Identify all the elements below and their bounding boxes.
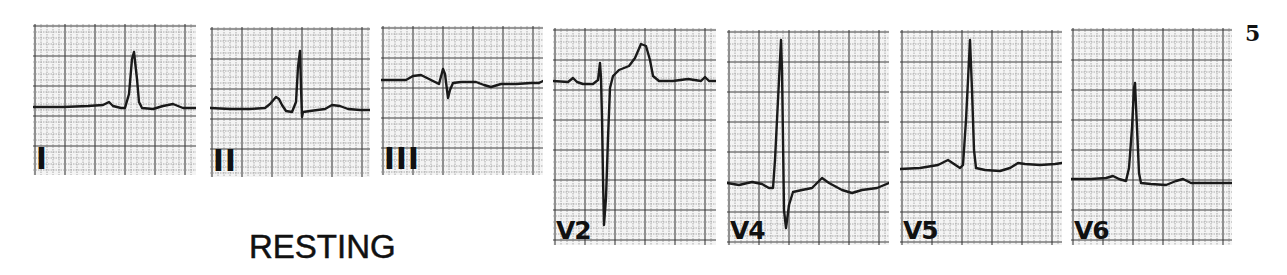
ecg-trace-lead-v5 [900, 30, 1062, 245]
ecg-trace-lead-v2 [553, 28, 716, 245]
figure-caption: RESTING [249, 228, 396, 266]
ecg-panel-lead-iii: III [381, 26, 543, 175]
ecg-panel-lead-ii: II [210, 27, 370, 177]
lead-label-v4: V4 [730, 218, 765, 243]
lead-label-iii: III [384, 143, 420, 174]
ecg-panel-lead-v5: V5 [900, 30, 1062, 245]
ecg-panel-lead-v4: V4 [727, 30, 889, 245]
ecg-panel-lead-i: I [33, 24, 196, 175]
lead-label-v6: V6 [1074, 218, 1109, 243]
lead-label-ii: II [213, 145, 237, 176]
lead-label-v2: V2 [556, 218, 591, 243]
figure-number: 5 [1245, 20, 1260, 46]
ecg-trace-lead-v4 [727, 30, 889, 245]
lead-label-v5: V5 [903, 218, 938, 243]
lead-label-i: I [36, 143, 48, 174]
ecg-trace-lead-v6 [1071, 28, 1232, 245]
ecg-trace-lead-i [33, 24, 196, 175]
ecg-panel-lead-v6: V6 [1071, 28, 1232, 245]
ecg-panel-lead-v2: V2 [553, 28, 716, 245]
